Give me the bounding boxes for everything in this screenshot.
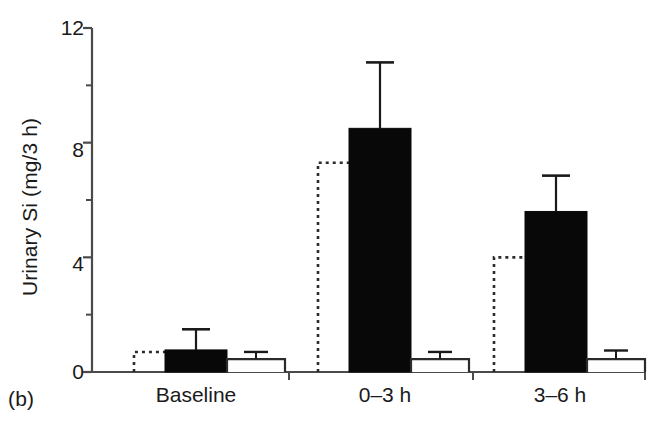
bar-solid-black: [525, 211, 587, 372]
bar-open-white: [227, 359, 285, 372]
bar-dashed-outline: [494, 257, 525, 372]
bar-open-white: [411, 359, 469, 372]
bar-dashed-outline: [318, 163, 349, 372]
bar-solid-black: [165, 350, 227, 372]
bar-open-white: [587, 359, 645, 372]
figure-panel-b: Urinary Si (mg/3 h) 12840 Baseline0–3 h3…: [0, 0, 653, 424]
bar-dashed-outline: [134, 352, 165, 372]
bars-group: [134, 62, 645, 372]
chart-plot-area: [0, 0, 653, 424]
bar-solid-black: [349, 128, 411, 372]
